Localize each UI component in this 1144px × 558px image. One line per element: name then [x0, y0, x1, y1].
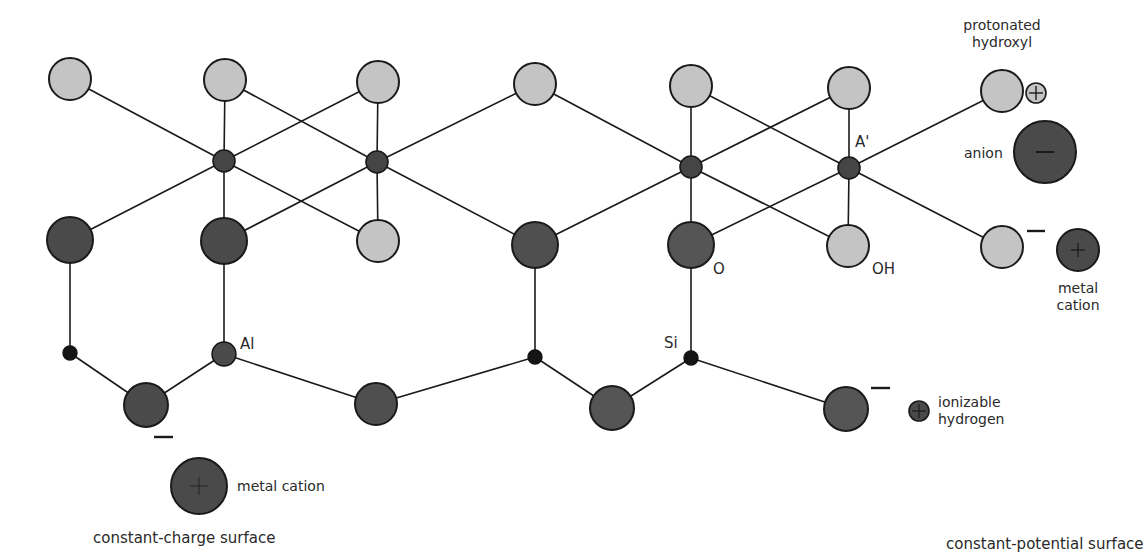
aluminum-substitution-atom [212, 342, 236, 366]
label-oh: OH [872, 261, 895, 278]
tetrahedral-layer [63, 342, 698, 366]
label-metal-cation-right: metal cation [1046, 280, 1110, 314]
label-o: O [713, 261, 725, 278]
silicon-atom [684, 351, 698, 365]
oxygen-atom [590, 386, 634, 430]
aluminum-atom [213, 150, 235, 172]
hydroxyl-atom [204, 59, 246, 101]
label-metal-cation-left: metal cation [237, 478, 325, 495]
oxygen-atom [124, 383, 168, 427]
hydroxyl-atom [49, 58, 91, 100]
top-hydroxyl-layer [49, 58, 1023, 112]
oxygen-atom [512, 222, 558, 268]
aluminum-atom [680, 156, 702, 178]
oxygen-atom [355, 383, 397, 425]
silicon-atom [528, 350, 542, 364]
label-constant-charge-surface: constant-charge surface [93, 530, 275, 547]
hydroxyl-atom [828, 67, 870, 109]
oxygen-atom [668, 222, 714, 268]
proton-plus-icon [1026, 83, 1046, 103]
protonated-hydroxyl-atom [981, 70, 1023, 112]
ionizable-hydrogen-plus-icon [909, 401, 929, 421]
oxygen-atom [824, 387, 868, 431]
label-ionizable-hydrogen: ionizable hydrogen [938, 394, 1004, 428]
metal-cation-right-plus-icon [1057, 229, 1099, 271]
aluminum-atom [366, 151, 388, 173]
octahedral-aluminum-layer [213, 150, 860, 179]
oxygen-atom [201, 218, 247, 264]
anion-minus-icon [1014, 121, 1076, 183]
label-al-tetrahedral: Al [240, 336, 254, 353]
oxygen-atom [47, 217, 93, 263]
hydroxyl-atom [357, 220, 399, 262]
aluminum-atom [838, 157, 860, 179]
label-si: Si [664, 335, 678, 352]
hydroxyl-atom [827, 225, 869, 267]
silicon-atom [63, 346, 77, 360]
hydroxyl-atom [670, 65, 712, 107]
label-al-octahedral: A' [855, 134, 869, 151]
hydroxyl-atom [357, 61, 399, 103]
deprotonated-hydroxyl-atom [981, 226, 1023, 268]
bottom-oxygen-layer [124, 383, 868, 431]
hydroxyl-atom [514, 63, 556, 105]
label-anion: anion [964, 145, 1003, 162]
label-protonated-hydroxyl: protonated hydroxyl [960, 17, 1044, 51]
label-constant-potential-surface: constant-potential surface [946, 536, 1144, 553]
metal-cation-left-plus-icon [171, 458, 227, 514]
